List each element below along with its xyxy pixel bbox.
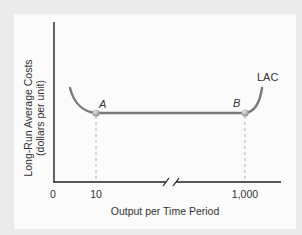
x-tick-0: 0 [50,188,56,200]
y-axis-title-line1: Long-Run Average Costs [22,59,34,176]
x-tick-1000: 1,000 [232,188,258,200]
x-axis-title: Output per Time Period [111,205,220,217]
point-a-label: A [98,98,106,110]
lac-chart: A B LAC 0 10 1,000 Output per Time Perio… [0,0,302,235]
point-b-marker [241,109,248,116]
point-a-marker [92,109,99,116]
y-axis-title-line2: (dollars per unit) [34,80,46,156]
x-tick-10: 10 [90,188,102,200]
axis-break-icon [163,178,179,186]
point-b-label: B [233,97,240,109]
curve-label: LAC [257,71,278,83]
